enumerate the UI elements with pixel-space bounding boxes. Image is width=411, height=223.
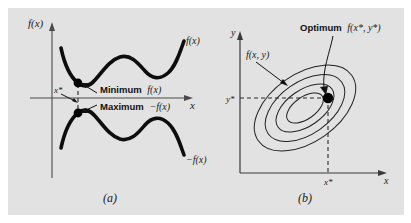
panel-a-minimum-math: f(x) [147,84,162,96]
optimization-figure: f(x) x x* Minimum f [0,0,411,223]
panel-a-minimum-bold: Minimum [100,84,142,95]
figure-background-plate [8,8,404,215]
panel-b-x-axis-label: x [383,175,389,186]
panel-a-maximum-math: −f(x) [149,101,170,113]
panel-a-xstar-label: x* [53,85,63,95]
panel-b-optimum-bold: Optimum [300,22,342,33]
panel-a-curve-top-label: f(x) [186,35,201,47]
panel-b-optimum-dot [323,93,333,103]
panel-a-minimum-label: Minimum f(x) [100,84,162,96]
panel-b-optimum-math: f(x*, y*) [347,22,381,34]
panel-a-x-axis-label: x [189,99,195,111]
panel-a-maximum-label: Maximum −f(x) [100,101,171,113]
figure-container: f(x) x x* Minimum f [0,0,411,223]
panel-a-maximum-bold: Maximum [100,101,144,112]
panel-a-caption: (a) [103,191,117,205]
panel-b-contour-label: f(x, y) [246,49,270,61]
panel-b-ystar-label: y* [225,94,235,104]
panel-b-caption: (b) [298,191,312,205]
panel-b-y-axis-label: y [230,27,236,38]
panel-b-optimum-label: Optimum f(x*, y*) [300,22,381,34]
panel-a-y-axis-label: f(x) [28,17,44,30]
panel-a-curve-bottom-label: −f(x) [186,154,207,166]
panel-b-xstar-label: x* [323,177,333,187]
